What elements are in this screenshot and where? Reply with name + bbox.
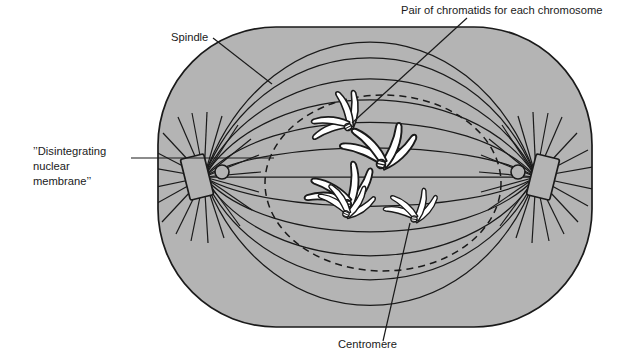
- label-nuclear-membrane-line2: nuclear: [33, 160, 70, 172]
- label-nuclear-membrane-line3: membrane’’: [33, 175, 91, 187]
- label-spindle: Spindle: [171, 31, 208, 43]
- label-nuclear-membrane-line1: ’’Disintegrating: [33, 145, 106, 157]
- label-chromatids: Pair of chromatids for each chromosome: [401, 4, 602, 16]
- label-nuclear-membrane: ’’Disintegrating nuclear membrane’’: [33, 145, 106, 187]
- mitosis-diagram: Spindle Pair of chromatids for each chro…: [0, 0, 635, 360]
- label-centromere: Centromere: [338, 338, 397, 350]
- centriole-dot-right: [511, 165, 525, 179]
- centriole-dot-left: [215, 165, 229, 179]
